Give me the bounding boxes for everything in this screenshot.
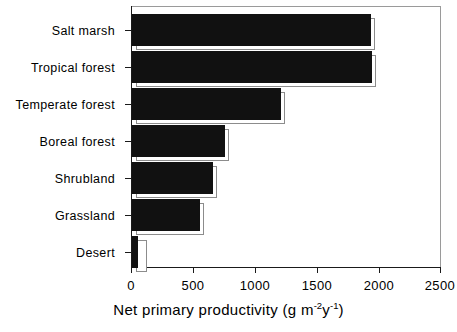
bar-fill	[132, 88, 281, 120]
x-axis-tick-label: 1500	[302, 278, 333, 293]
x-axis-tick-mark	[440, 268, 441, 273]
y-axis-tick-mark	[125, 215, 131, 216]
x-axis-tick-mark	[317, 268, 318, 273]
x-axis-tick-label: 1000	[240, 278, 271, 293]
chart-container: Salt marsh Tropical forest Temperate for…	[0, 0, 457, 332]
x-axis-tick-label: 500	[182, 278, 205, 293]
bar-fill	[132, 14, 371, 46]
y-axis-tick-mark	[125, 141, 131, 142]
y-axis-tick-label: Temperate forest	[16, 99, 115, 112]
x-axis-tick-label: 2000	[364, 278, 395, 293]
y-axis-tick-mark	[125, 252, 131, 253]
y-axis-tick-label: Desert	[76, 247, 115, 260]
x-axis-title-mid: y	[322, 301, 330, 318]
y-axis-tick-mark	[125, 104, 131, 105]
bar-fill	[132, 125, 225, 157]
bar-fill	[132, 162, 213, 194]
bar-fill	[132, 199, 200, 231]
x-axis-tick-mark	[193, 268, 194, 273]
plot-frame-right	[440, 6, 441, 268]
y-axis-tick-label: Boreal forest	[40, 136, 115, 149]
y-axis-tick-mark	[125, 67, 131, 68]
y-axis-tick-label: Shrubland	[55, 173, 115, 186]
x-axis-title-sup-area: -2	[314, 300, 322, 311]
x-axis-tick-mark	[255, 268, 256, 273]
plot-frame-top	[131, 6, 441, 7]
plot-area: 0 500 1000 1500 2000 2500	[131, 6, 441, 268]
y-axis-tick-mark	[125, 178, 131, 179]
x-axis-tick-label: 0	[127, 278, 135, 293]
x-axis-title-tail: )	[338, 301, 343, 318]
y-axis-tick-label: Grassland	[55, 210, 115, 223]
x-axis-line	[131, 267, 441, 268]
x-axis-title: Net primary productivity (g m-2y-1)	[0, 300, 457, 318]
x-axis-title-main: Net primary productivity (g m	[113, 301, 313, 318]
x-axis-tick-label: 2500	[425, 278, 456, 293]
x-axis-tick-mark	[131, 268, 132, 273]
x-axis-tick-mark	[379, 268, 380, 273]
y-axis-tick-label: Salt marsh	[52, 25, 115, 38]
y-axis-category-labels: Salt marsh Tropical forest Temperate for…	[0, 0, 124, 268]
y-axis-tick-label: Tropical forest	[31, 62, 115, 75]
bar-fill	[132, 51, 372, 83]
bar-fill	[132, 236, 138, 268]
y-axis-tick-mark	[125, 30, 131, 31]
